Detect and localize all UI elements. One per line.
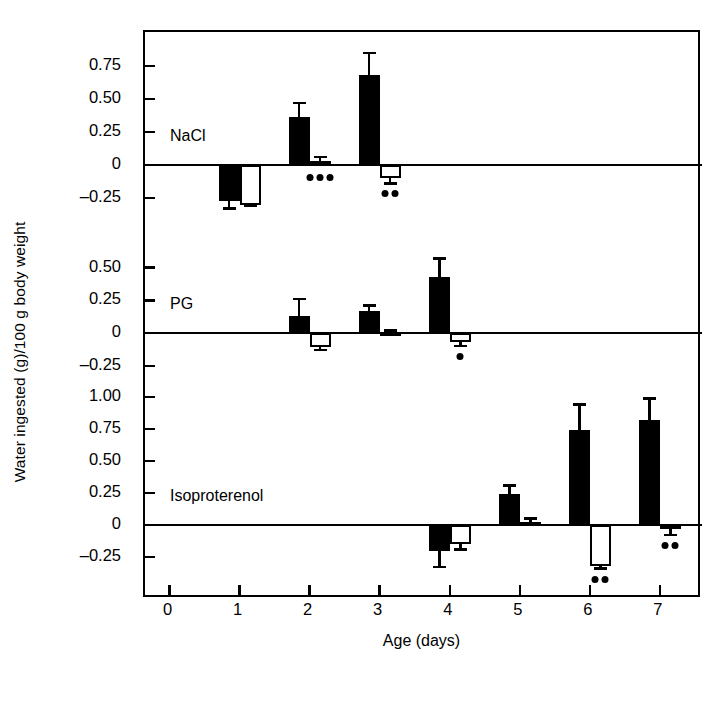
x-axis-tick (589, 585, 592, 596)
error-bar-cap (384, 329, 397, 332)
bar-isoproterenol-day7-filled (639, 420, 660, 525)
error-bar-cap (244, 205, 257, 208)
y-axis-tick (144, 396, 155, 399)
significance-marker (382, 190, 399, 197)
panel-zero-line (145, 524, 702, 527)
error-bar-cap (524, 517, 537, 520)
y-axis-tick (144, 492, 155, 495)
bar-isoproterenol-day5-filled (499, 494, 520, 525)
panel-zero-line (145, 332, 702, 335)
error-bar-cap (293, 298, 306, 301)
significance-marker (307, 174, 334, 181)
error-bar-cap (363, 52, 376, 55)
bar-pg-day2-open (310, 333, 331, 347)
x-axis-title: Age (days) (143, 632, 700, 650)
y-axis-tick-labels: 0.750.500.250–0.250.500.250–0.251.000.75… (0, 30, 133, 597)
error-bar-cap (384, 182, 397, 185)
y-axis-tick (144, 98, 155, 101)
x-axis-tick-label: 2 (303, 600, 312, 619)
x-axis-tick-label: 0 (163, 600, 172, 619)
bar-isoproterenol-day6-open (590, 525, 611, 566)
error-bar-cap (664, 534, 677, 537)
panel-label-isoproterenol: Isoproterenol (170, 487, 263, 505)
plot-frame: NaClPGIsoproterenol (143, 30, 700, 597)
y-axis-tick (144, 197, 155, 200)
error-bar-cap (594, 567, 607, 570)
x-axis-tick (168, 585, 171, 596)
bar-isoproterenol-day6-filled (569, 430, 590, 525)
x-axis-tick (659, 585, 662, 596)
significance-marker (457, 353, 464, 360)
y-axis-tick-label: –0.25 (80, 354, 121, 373)
error-bar-stem (438, 258, 441, 276)
y-axis-tick-label: –0.25 (80, 187, 121, 206)
x-axis-tick (449, 585, 452, 596)
error-bar-stem (368, 53, 371, 75)
bar-nacl-day3-open (380, 165, 401, 178)
y-axis-tick (144, 131, 155, 134)
error-bar-cap (503, 484, 516, 487)
y-axis-tick (144, 556, 155, 559)
significance-marker (662, 542, 679, 549)
error-bar-cap (363, 304, 376, 307)
error-bar-cap (433, 257, 446, 260)
bar-nacl-day1-filled (219, 165, 240, 201)
bar-pg-day3-open (380, 332, 401, 336)
bar-nacl-day1-open (240, 165, 261, 205)
x-axis-tick (378, 585, 381, 596)
error-bar-stem (438, 551, 441, 568)
error-bar-stem (578, 405, 581, 431)
x-axis-tick-labels: 01234567 (143, 600, 700, 626)
error-bar-cap (454, 548, 467, 551)
y-axis-tick (144, 365, 155, 368)
bar-isoproterenol-day4-filled (429, 525, 450, 551)
y-axis-tick-label: –0.25 (80, 546, 121, 565)
error-bar-cap (643, 397, 656, 400)
y-axis-tick-label: 0 (112, 514, 121, 533)
error-bar-cap (293, 102, 306, 105)
x-axis-tick-label: 7 (653, 600, 662, 619)
error-bar-cap (223, 207, 236, 210)
error-bar-stem (508, 485, 511, 494)
error-bar-cap (454, 345, 467, 348)
y-axis-tick-label: 0.25 (89, 121, 121, 140)
y-axis-tick-label: 0.50 (89, 88, 121, 107)
x-axis-tick-label: 3 (373, 600, 382, 619)
error-bar-stem (648, 398, 651, 420)
error-bar-cap (433, 566, 446, 569)
bar-nacl-day2-filled (289, 117, 310, 165)
y-axis-tick (144, 299, 155, 302)
bar-nacl-day3-filled (359, 75, 380, 165)
bar-nacl-day2-open (310, 161, 331, 165)
x-axis-tick (308, 585, 311, 596)
y-axis-tick-label: 0 (112, 322, 121, 341)
significance-marker (592, 576, 609, 583)
error-bar-cap (314, 156, 327, 159)
error-bar-cap (573, 403, 586, 406)
bar-pg-day4-filled (429, 277, 450, 333)
x-axis-tick (519, 585, 522, 596)
error-bar-stem (298, 103, 301, 118)
y-axis-tick-label: 0 (112, 154, 121, 173)
x-axis-tick-label: 6 (583, 600, 592, 619)
y-axis-tick-label: 0.50 (89, 450, 121, 469)
y-axis-tick-label: 0.75 (89, 55, 121, 74)
y-axis-tick-label: 0.75 (89, 418, 121, 437)
y-axis-tick-label: 0.25 (89, 482, 121, 501)
y-axis-tick (144, 428, 155, 431)
y-axis-tick (144, 65, 155, 68)
bar-pg-day3-filled (359, 311, 380, 333)
y-axis-tick (144, 266, 155, 269)
figure-root: Water ingested (g)/100 g body weight 0.7… (0, 0, 727, 704)
x-axis-tick (238, 585, 241, 596)
y-axis-tick (144, 460, 155, 463)
y-axis-tick-label: 1.00 (89, 386, 121, 405)
bar-isoproterenol-day4-open (450, 525, 471, 544)
y-axis-tick-label: 0.50 (89, 256, 121, 275)
x-axis-tick-label: 1 (233, 600, 242, 619)
bar-pg-day4-open (450, 333, 471, 342)
error-bar-stem (298, 299, 301, 316)
x-axis-tick-label: 5 (513, 600, 522, 619)
bar-pg-day2-filled (289, 316, 310, 333)
panel-label-pg: PG (170, 295, 193, 313)
